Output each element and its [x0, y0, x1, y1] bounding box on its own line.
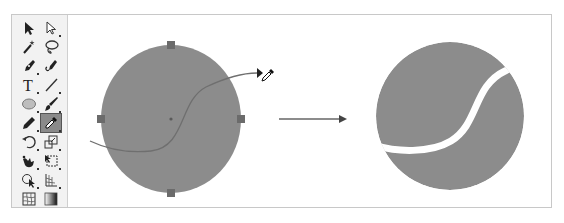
paintbrush-tool[interactable]	[41, 95, 61, 113]
pencil-icon	[21, 115, 37, 131]
perspective-grid-icon	[43, 172, 59, 188]
curvature-tool[interactable]	[41, 57, 61, 75]
shape-builder-icon	[21, 172, 37, 188]
magic-wand-tool[interactable]	[19, 38, 39, 56]
anchor-handle-left[interactable]	[97, 115, 105, 123]
path-end-arrow-cursor-icon	[257, 68, 263, 78]
anchor-handle-top[interactable]	[167, 41, 175, 49]
ellipse-tool[interactable]	[19, 95, 39, 113]
line-segment-icon	[43, 77, 59, 93]
tennis-ball-shape	[376, 42, 524, 190]
rotate-icon	[21, 134, 37, 150]
lasso-icon	[43, 39, 59, 55]
artboard-canvas[interactable]	[68, 15, 551, 207]
illustration-frame: T	[11, 14, 552, 208]
eyedropper-tool[interactable]	[41, 114, 61, 132]
mesh-tool[interactable]	[19, 190, 39, 208]
anchor-handle-bottom[interactable]	[167, 189, 175, 197]
center-point	[169, 117, 172, 120]
gradient-swatch-icon	[43, 191, 59, 207]
free-transform-tool[interactable]	[41, 152, 61, 170]
selection-arrow-icon	[21, 20, 37, 36]
warp-hand-icon	[21, 153, 37, 169]
before-illustration	[90, 41, 274, 197]
eyedropper-cursor-icon	[262, 69, 274, 81]
pencil-tool[interactable]	[19, 114, 39, 132]
shape-builder-tool[interactable]	[19, 171, 39, 189]
svg-text:T: T	[23, 77, 33, 93]
ellipse-icon	[21, 96, 37, 112]
type-tool[interactable]: T	[19, 76, 39, 94]
pen-tool[interactable]	[19, 57, 39, 75]
warp-tool[interactable]	[19, 152, 39, 170]
scale-tool[interactable]	[41, 133, 61, 151]
direct-selection-arrow-icon	[43, 20, 59, 36]
perspective-grid-tool[interactable]	[41, 171, 61, 189]
eyedropper-icon	[43, 115, 59, 131]
rotate-tool[interactable]	[19, 133, 39, 151]
tools-panel: T	[12, 15, 68, 207]
free-transform-icon	[43, 153, 59, 169]
scale-icon	[43, 134, 59, 150]
anchor-handle-right[interactable]	[237, 115, 245, 123]
pen-nib-icon	[21, 58, 37, 74]
transform-arrow	[279, 115, 347, 123]
gradient-tool[interactable]	[41, 190, 61, 208]
magic-wand-icon	[21, 39, 37, 55]
paintbrush-icon	[43, 96, 59, 112]
direct-selection-tool[interactable]	[41, 19, 61, 37]
curvature-pen-icon	[43, 58, 59, 74]
after-illustration	[371, 42, 531, 190]
type-t-icon: T	[21, 77, 37, 93]
selection-tool[interactable]	[19, 19, 39, 37]
line-segment-tool[interactable]	[41, 76, 61, 94]
mesh-grid-icon	[21, 191, 37, 207]
lasso-tool[interactable]	[41, 38, 61, 56]
